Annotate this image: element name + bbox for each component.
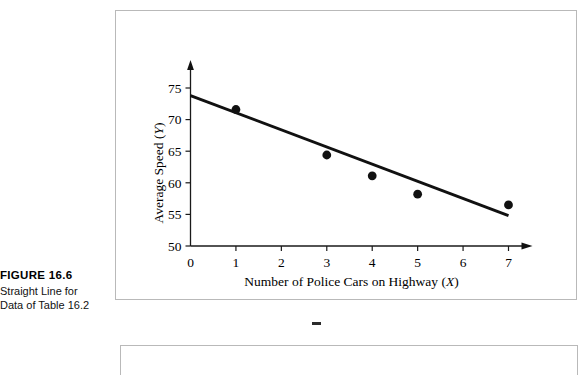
page-dash-mark <box>312 322 321 325</box>
x-axis-title: Number of Police Cars on Highway (X) <box>244 274 458 289</box>
x-tick-label: 3 <box>323 255 330 270</box>
secondary-figure-frame <box>120 345 578 375</box>
x-tick-label: 7 <box>505 255 512 270</box>
y-tick-label: 70 <box>168 112 182 127</box>
x-tick-label: 5 <box>414 255 421 270</box>
data-point <box>504 201 513 210</box>
x-axis-arrowhead <box>522 243 533 250</box>
x-tick-label: 2 <box>278 255 285 270</box>
data-point <box>368 171 377 180</box>
y-tick-label: 55 <box>168 207 182 222</box>
y-axis-arrowhead <box>187 60 194 70</box>
y-tick-label: 50 <box>168 239 182 254</box>
x-tick-label: 4 <box>369 255 376 270</box>
x-tick-label: 1 <box>233 255 240 270</box>
x-tick-label: 6 <box>460 255 467 270</box>
y-tick-label: 65 <box>168 144 182 159</box>
data-point <box>232 105 241 114</box>
y-tick-label: 60 <box>168 176 182 191</box>
y-tick-label: 75 <box>168 81 182 96</box>
data-point <box>322 151 331 160</box>
x-tick-label: 0 <box>187 255 194 270</box>
y-axis-title: Average Speed (Y) <box>151 123 166 224</box>
data-point <box>413 190 422 199</box>
regression-line <box>191 96 509 216</box>
